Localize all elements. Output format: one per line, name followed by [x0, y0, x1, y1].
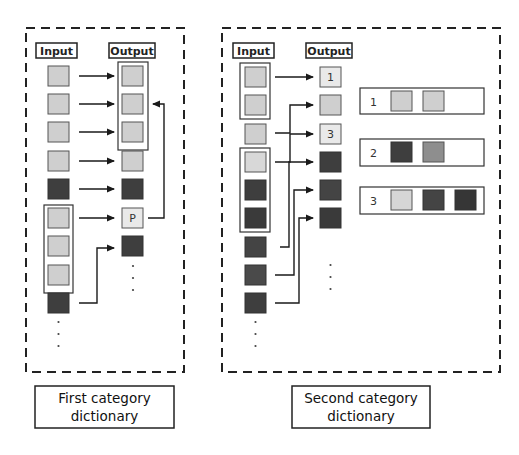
group-id: 1 — [370, 96, 377, 109]
input-square — [48, 208, 69, 228]
input-square — [48, 265, 69, 285]
first-output-ellipsis — [132, 265, 134, 291]
input-square — [48, 94, 69, 114]
output-square — [122, 236, 143, 256]
output-square — [320, 180, 341, 200]
first-caption-line2: dictionary — [71, 408, 138, 424]
output-square — [320, 152, 341, 172]
first-caption-line1: First category — [58, 390, 150, 406]
input-square — [245, 95, 266, 115]
first-output-column: P — [122, 66, 143, 256]
input-square — [245, 124, 266, 144]
input-header-label: Input — [237, 45, 270, 58]
output-square — [122, 151, 143, 171]
first-input-ellipsis — [57, 321, 59, 347]
category-group-3: 3 — [360, 187, 484, 214]
pointer-label: P — [129, 212, 136, 225]
input-square — [48, 236, 69, 256]
output-index-label: 3 — [327, 128, 334, 141]
group-item — [455, 190, 476, 210]
group-id: 2 — [370, 147, 377, 160]
input-square — [245, 152, 266, 172]
group-item — [423, 190, 444, 210]
group-item — [391, 190, 412, 210]
input-header-label: Input — [40, 45, 73, 58]
output-square — [122, 179, 143, 199]
second-caption-line2: dictionary — [327, 408, 394, 424]
input-square — [48, 122, 69, 142]
group-box — [360, 139, 484, 166]
group-item — [423, 142, 444, 162]
output-header-label: Output — [110, 45, 153, 58]
group-item — [391, 91, 412, 111]
group-box — [360, 88, 484, 114]
input-square — [245, 265, 266, 285]
output-header-label: Output — [307, 45, 350, 58]
input-square — [245, 180, 266, 200]
second-input-column — [245, 67, 266, 313]
group-id: 3 — [370, 195, 377, 208]
input-square — [245, 67, 266, 87]
second-output-column: 1 3 — [320, 67, 341, 228]
category-dictionary-diagram: Input Output P — [0, 0, 519, 455]
first-caption: First category dictionary — [35, 386, 174, 428]
input-square — [48, 179, 69, 199]
input-square — [48, 151, 69, 171]
output-square — [122, 66, 143, 86]
category-group-1: 1 — [360, 88, 484, 114]
output-square — [320, 95, 341, 115]
second-category-panel: Input Output 1 3 — [222, 28, 500, 372]
first-input-column — [48, 66, 69, 313]
group-item — [391, 142, 412, 162]
first-category-panel: Input Output P — [26, 28, 184, 372]
category-group-2: 2 — [360, 139, 484, 166]
group-item — [423, 91, 444, 111]
input-square — [48, 66, 69, 86]
second-panel-arrows — [275, 77, 313, 303]
input-square — [48, 293, 69, 313]
input-square — [245, 208, 266, 228]
second-input-ellipsis — [254, 321, 256, 347]
output-square — [122, 94, 143, 114]
second-caption-line1: Second category — [304, 390, 418, 406]
input-square — [245, 237, 266, 257]
output-square — [122, 122, 143, 142]
output-square — [320, 208, 341, 228]
second-caption: Second category dictionary — [292, 386, 430, 428]
output-index-label: 1 — [327, 71, 334, 84]
second-output-ellipsis — [329, 264, 331, 290]
input-square — [245, 293, 266, 313]
